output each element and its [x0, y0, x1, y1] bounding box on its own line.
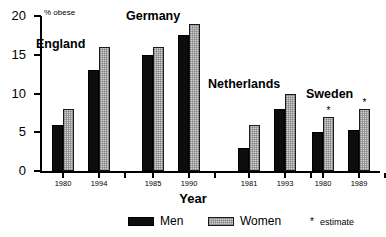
estimate-asterisk-icon: *	[323, 106, 334, 116]
bar-england-1994-men	[88, 70, 99, 171]
y-axis-tick	[34, 170, 41, 172]
x-axis-year-label: 1989	[339, 179, 379, 188]
x-axis-year-label: 1990	[169, 179, 209, 188]
y-axis-tick-label: 0	[0, 164, 26, 177]
bar-germany-1985-men	[142, 55, 153, 171]
bar-netherlands-1993-women	[285, 94, 296, 172]
x-axis-tick	[98, 173, 100, 178]
x-axis-year-label: 1994	[79, 179, 119, 188]
legend-swatch-men-icon	[128, 217, 154, 226]
estimate-asterisk-icon: *	[359, 98, 370, 108]
x-axis-tick	[124, 173, 126, 178]
x-axis-tick	[188, 173, 190, 178]
x-axis-tick	[214, 173, 216, 178]
x-axis-line	[40, 171, 380, 173]
x-axis-tick	[358, 173, 360, 178]
bar-sweden-1980-men	[312, 132, 323, 171]
y-axis-tick	[34, 15, 41, 17]
y-axis-tick-label: 5	[0, 125, 26, 138]
x-axis-year-label: 1980	[303, 179, 343, 188]
bar-sweden-1989-men	[348, 130, 359, 171]
country-title-sweden: Sweden	[306, 88, 353, 101]
asterisk-icon: *	[310, 217, 314, 227]
country-title-netherlands: Netherlands	[208, 78, 280, 91]
legend-label-estimate: estimate	[320, 217, 354, 227]
x-axis-tick	[284, 173, 286, 178]
legend-item-women: Women	[208, 215, 281, 228]
legend-item-men: Men	[128, 215, 183, 228]
bar-england-1980-men	[52, 125, 63, 172]
country-title-germany: Germany	[126, 10, 180, 23]
x-axis-year-label: 1993	[265, 179, 305, 188]
x-axis-year-label: 1980	[43, 179, 83, 188]
bar-sweden-1980-women	[323, 117, 334, 171]
plot-area: 05101520 % obese England19801994Germany1…	[0, 0, 386, 237]
y-axis-tick-label: 10	[0, 87, 26, 100]
bar-germany-1990-men	[178, 35, 189, 171]
x-axis-title: Year	[0, 192, 386, 206]
legend-item-estimate-note: * estimate	[310, 217, 354, 227]
legend-swatch-women-icon	[208, 217, 234, 226]
bar-netherlands-1993-men	[274, 109, 285, 171]
bar-germany-1990-women	[189, 24, 200, 171]
x-axis-year-label: 1981	[229, 179, 269, 188]
x-axis-tick	[62, 173, 64, 178]
legend-label-women: Women	[240, 215, 281, 228]
country-title-england: England	[36, 38, 85, 51]
bar-england-1980-women	[63, 109, 74, 171]
y-axis-tick	[34, 93, 41, 95]
y-axis-tick-label: 15	[0, 48, 26, 61]
obesity-bar-chart: 05101520 % obese England19801994Germany1…	[0, 0, 386, 237]
y-axis-unit-label: % obese	[44, 8, 75, 17]
bar-germany-1985-women	[153, 47, 164, 171]
x-axis-year-label: 1985	[133, 179, 173, 188]
chart-legend: Men Women * estimate	[0, 213, 386, 231]
legend-label-men: Men	[160, 215, 183, 228]
bar-sweden-1989-women	[359, 109, 370, 171]
y-axis-tick	[34, 131, 41, 133]
y-axis-tick-label: 20	[0, 9, 26, 22]
bar-netherlands-1981-men	[238, 148, 249, 171]
x-axis-tick	[152, 173, 154, 178]
bar-netherlands-1981-women	[249, 125, 260, 172]
x-axis-tick	[322, 173, 324, 178]
y-axis-tick	[34, 54, 41, 56]
x-axis-tick	[248, 173, 250, 178]
bar-england-1994-women	[99, 47, 110, 171]
x-axis-tick	[310, 173, 312, 178]
